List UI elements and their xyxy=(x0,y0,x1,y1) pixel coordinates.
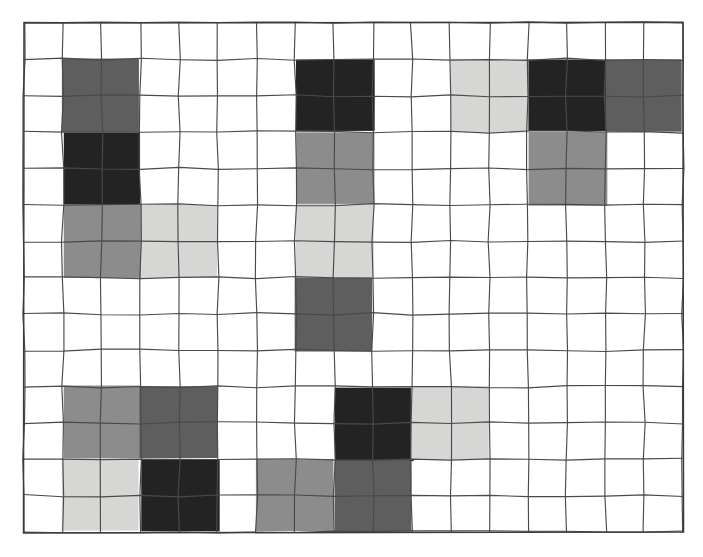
grid-pattern-figure xyxy=(0,0,703,557)
grid-pattern-svg xyxy=(0,0,703,557)
grid-block xyxy=(528,59,607,130)
image-canvas xyxy=(0,0,703,557)
grid-block xyxy=(64,386,141,459)
